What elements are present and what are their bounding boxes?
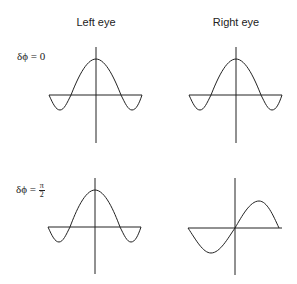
waveform-diagram (0, 0, 297, 284)
sine-curve (188, 201, 279, 253)
panel-right-eye-phase-zero (189, 47, 282, 143)
panel-left-eye-phase-half-pi (48, 178, 141, 274)
panel-right-eye-phase-half-pi (188, 178, 282, 275)
panel-left-eye-phase-zero (49, 47, 142, 143)
